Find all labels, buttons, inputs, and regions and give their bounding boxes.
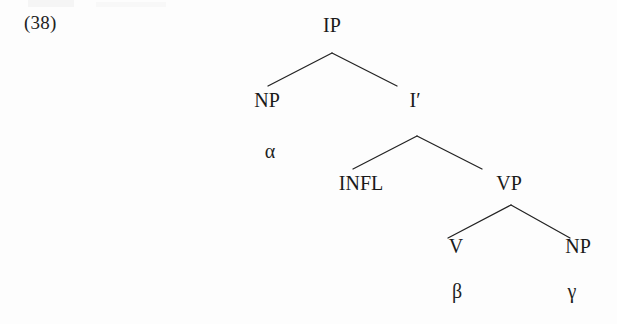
branch-ip-ibar [332,53,397,86]
node-v: V [449,236,463,256]
node-i-bar: I′ [409,90,420,110]
node-infl: INFL [339,173,383,193]
branch-vp-np [511,205,570,238]
node-beta: β [452,281,462,301]
branch-ip-np [268,53,332,86]
node-gamma: γ [568,281,577,301]
node-alpha: α [265,141,275,161]
node-vp: VP [496,173,522,193]
branch-ibar-vp [417,136,482,169]
node-np-object: NP [565,236,591,256]
figure-page: (38) IP NP α I′ INFL VP V NP β γ [0,0,617,324]
branch-ibar-infl [353,136,417,169]
scan-artifact-secondary [96,2,166,7]
example-number: (38) [24,12,56,34]
tree-branch-lines [0,0,617,324]
node-ip: IP [323,15,341,35]
branch-vp-v [448,205,511,238]
node-np-subject: NP [254,90,280,110]
scan-artifact [28,0,74,7]
